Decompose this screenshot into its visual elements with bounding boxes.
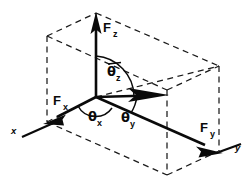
- x-axis-stub: [22, 121, 58, 137]
- box-edge-top-back-right: [96, 13, 219, 66]
- theta-y-subscript: y: [130, 119, 135, 129]
- fx-label-main: F: [53, 93, 61, 108]
- construction-box: [47, 13, 219, 175]
- theta-z-subscript: z: [116, 73, 121, 83]
- fz-label-subscript: z: [113, 29, 118, 39]
- theta-z-symbol: θ: [107, 64, 116, 79]
- y-axis-label: y: [234, 142, 241, 153]
- fy-label-subscript: y: [210, 129, 215, 139]
- fx-label-subscript: x: [63, 102, 68, 112]
- label-theta-z: θ z: [107, 64, 121, 83]
- theta-x-subscript: x: [97, 118, 102, 128]
- theta-y-symbol: θ: [121, 110, 130, 125]
- box-edge-top-back-left: [47, 13, 96, 36]
- label-theta-x: θ x: [88, 109, 102, 128]
- box-edge-top-front-right: [167, 66, 219, 90]
- fy-label-main: F: [200, 120, 208, 135]
- vector-resultant: [96, 88, 169, 102]
- vector-fz: [91, 12, 102, 97]
- diagram-canvas: F z F x F y θ z θ x θ y x y: [0, 0, 252, 185]
- label-fz: F z: [103, 20, 118, 39]
- theta-x-symbol: θ: [88, 109, 97, 124]
- x-axis-label: x: [10, 125, 17, 136]
- label-fy: F y: [200, 120, 215, 139]
- fz-label-main: F: [103, 20, 111, 35]
- box-edge-top-front-left: [47, 36, 167, 90]
- force-vector-diagram: F z F x F y θ z θ x θ y x y: [0, 0, 252, 185]
- box-edge-bottom-front-left: [47, 122, 167, 175]
- fy-shaft: [96, 97, 205, 145]
- label-fx: F x: [53, 93, 68, 112]
